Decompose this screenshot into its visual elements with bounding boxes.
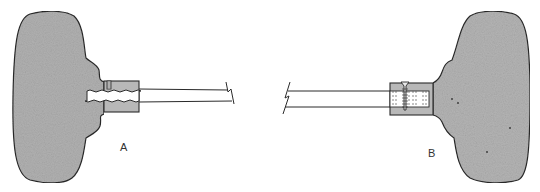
label-a: A xyxy=(120,141,127,153)
diagram-canvas xyxy=(0,0,540,192)
handle-b-body xyxy=(433,11,530,183)
break-mark-b xyxy=(283,82,290,114)
rod-a-top xyxy=(139,89,228,90)
rod-a-bottom xyxy=(139,101,232,102)
threaded-bore-a xyxy=(85,90,141,102)
label-b: B xyxy=(428,147,435,159)
handle-b xyxy=(283,11,530,183)
handle-a xyxy=(13,11,234,183)
